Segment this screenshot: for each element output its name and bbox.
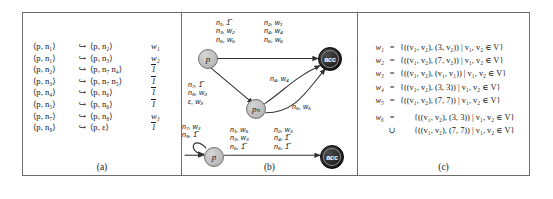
- equation-row: w₃ = {((v₁, v₂), (v₁, v₁)) | v₁, v₂ ∈ V}: [364, 67, 514, 80]
- rule-rhs: ⟨p, n₃⟩: [90, 53, 145, 65]
- equation-name: w₆: [364, 111, 384, 124]
- panel-b: p acc pₙ p acc n₁, 1̅ n₃, w₂ n₅, w₅ n₂, …: [182, 13, 358, 175]
- equation-body: {((v₁, v₂), (7, 7)) | v₁, v₂ ∈ V}: [400, 94, 500, 107]
- rule-arrow-icon: ↪: [75, 122, 90, 134]
- rule-lhs: ⟨p, n₁⟩: [33, 53, 75, 65]
- rule-weight: 1: [145, 99, 171, 111]
- equals-sign: =: [384, 81, 400, 94]
- equation-row: w₂ = {((v₁, v₂), (7, v₂)) | v₁, v₂ ∈ V}: [364, 54, 514, 67]
- rule-lhs: ⟨p, n₈⟩: [33, 122, 75, 134]
- panel-caption: (c): [358, 162, 529, 172]
- rule-weight: 1: [145, 87, 171, 99]
- rule-rhs: ⟨p, n₇ n₅⟩: [90, 76, 145, 88]
- panel-c: w₁ = {((v₁, v₂), (3, v₂)) | v₁, v₂ ∈ V} …: [358, 13, 529, 175]
- rule-rhs: ⟨p, n₂⟩: [90, 41, 145, 53]
- rule-rhs: ⟨p, n₇ n₄⟩: [90, 64, 145, 76]
- edge-label-pn-curve-upper: n₄, w₄: [270, 75, 289, 83]
- rule-arrow-icon: ↪: [75, 41, 90, 53]
- equation-row: w₅ = {((v₁, v₂), (7, 7)) | v₁, v₂ ∈ V}: [364, 94, 514, 107]
- rule-weight: w₂: [145, 53, 171, 65]
- rule-lhs: ⟨p, n₇⟩: [33, 111, 75, 123]
- rule-lhs: ⟨p, n₁⟩: [33, 41, 75, 53]
- edge-label-self-loop: n₇, w₃ n₈, 1̅: [182, 123, 201, 140]
- rule-row: ⟨p, n₅⟩ ↪ ⟨p, n₆⟩ 1: [33, 99, 171, 111]
- edge-label-bottom-right-col: n₂, w₃ n₄, 1̅ n₆, 1̅: [274, 126, 293, 151]
- edge-label-bottom-left-col: n₁, w₆ n₃, w₃ n₅, 1̅: [230, 126, 249, 151]
- equation-name: w₃: [364, 67, 384, 80]
- rule-weight: 1: [145, 64, 171, 76]
- rule-lhs: ⟨p, n₃⟩: [33, 76, 75, 88]
- rule-arrow-icon: ↪: [75, 99, 90, 111]
- equals-sign: =: [384, 41, 400, 54]
- rule-lhs: ⟨p, n₅⟩: [33, 99, 75, 111]
- equation-row: w₄ = {((v₁, v₂), (3, 3)) | v₁, v₂ ∈ V}: [364, 81, 514, 94]
- rule-row: ⟨p, n₁⟩ ↪ ⟨p, n₃⟩ w₂: [33, 53, 171, 65]
- rule-lhs: ⟨p, n₂⟩: [33, 64, 75, 76]
- equation-name: w₂: [364, 54, 384, 67]
- rule-weight: 1: [145, 76, 171, 88]
- rule-arrow-icon: ↪: [75, 64, 90, 76]
- rule-weight: w₁: [145, 41, 171, 53]
- rule-rhs: ⟨p, n₆⟩: [90, 87, 145, 99]
- node-pn[interactable]: pₙ: [246, 99, 266, 119]
- equation-body: {((v₁, v₂), (7, 7)) | v₁, v₂ ∈ V}: [400, 124, 514, 137]
- equation-body: {((v₁, v₂), (7, v₂)) | v₁, v₂ ∈ V}: [400, 54, 503, 67]
- rule-row: ⟨p, n₃⟩ ↪ ⟨p, n₇ n₅⟩ 1: [33, 76, 171, 88]
- union-operator: ∪: [384, 124, 400, 137]
- equals-sign: =: [384, 67, 400, 80]
- rule-row: ⟨p, n₇⟩ ↪ ⟨p, n₈⟩ w₃: [33, 111, 171, 123]
- node-acc-top[interactable]: acc: [318, 47, 342, 71]
- rule-weight: w₃: [145, 111, 171, 123]
- figure-container: ⟨p, n₁⟩ ↪ ⟨p, n₂⟩ w₁ ⟨p, n₁⟩ ↪ ⟨p, n₃⟩ w…: [22, 12, 530, 176]
- rule-rhs: ⟨p, n₆⟩: [90, 99, 145, 111]
- equation-body: {((v₁, v₂), (v₁, v₁)) | v₁, v₂ ∈ V}: [400, 67, 506, 80]
- equation-row-w6-line2: ∪ {((v₁, v₂), (7, 7)) | v₁, v₂ ∈ V}: [364, 124, 514, 137]
- rule-rhs: ⟨p, n₈⟩: [90, 111, 145, 123]
- pushdown-rules-list: ⟨p, n₁⟩ ↪ ⟨p, n₂⟩ w₁ ⟨p, n₁⟩ ↪ ⟨p, n₃⟩ w…: [33, 41, 171, 134]
- equation-body: {((v₁, v₂), (3, 3)) | v₁, v₂ ∈ V}: [400, 111, 514, 124]
- weight-definitions-list: w₁ = {((v₁, v₂), (3, v₂)) | v₁, v₂ ∈ V} …: [364, 41, 514, 137]
- panel-caption: (a): [23, 162, 181, 172]
- rule-arrow-icon: ↪: [75, 53, 90, 65]
- node-p-top[interactable]: p: [198, 49, 218, 69]
- rule-weight: 1: [145, 122, 171, 134]
- edge-label-p-to-pn: n₇, 1̅ n₈, w₃ ε, w₃: [188, 81, 207, 106]
- edge-label-top-right-col: n₂, w₁ n₄, w₄ n₆, w₆: [264, 19, 283, 44]
- rule-row: ⟨p, n₁⟩ ↪ ⟨p, n₂⟩ w₁: [33, 41, 171, 53]
- panel-a: ⟨p, n₁⟩ ↪ ⟨p, n₂⟩ w₁ ⟨p, n₁⟩ ↪ ⟨p, n₃⟩ w…: [23, 13, 182, 175]
- rule-rhs: ⟨p, ε⟩: [90, 122, 145, 134]
- rule-row: ⟨p, n₂⟩ ↪ ⟨p, n₇ n₄⟩ 1: [33, 64, 171, 76]
- equals-sign: =: [384, 54, 400, 67]
- edge-label-pn-curve-lower: n₅, w₅: [292, 103, 311, 111]
- equation-row: w₁ = {((v₁, v₂), (3, v₂)) | v₁, v₂ ∈ V}: [364, 41, 514, 54]
- rule-arrow-icon: ↪: [75, 87, 90, 99]
- rule-arrow-icon: ↪: [75, 76, 90, 88]
- equation-body: {((v₁, v₂), (3, 3)) | v₁, v₂ ∈ V}: [400, 81, 500, 94]
- edge-label-top-left-col: n₁, 1̅ n₃, w₂ n₅, w₅: [216, 19, 235, 44]
- equals-sign: =: [384, 94, 400, 107]
- rule-row: ⟨p, n₈⟩ ↪ ⟨p, ε⟩ 1: [33, 122, 171, 134]
- rule-lhs: ⟨p, n₄⟩: [33, 87, 75, 99]
- equation-name: w₄: [364, 81, 384, 94]
- equation-row-w6-line1: w₆ = {((v₁, v₂), (3, 3)) | v₁, v₂ ∈ V}: [364, 111, 514, 124]
- rule-row: ⟨p, n₄⟩ ↪ ⟨p, n₆⟩ 1: [33, 87, 171, 99]
- equals-sign: =: [384, 111, 400, 124]
- equation-body: {((v₁, v₂), (3, v₂)) | v₁, v₂ ∈ V}: [400, 41, 503, 54]
- equation-name: w₅: [364, 94, 384, 107]
- rule-arrow-icon: ↪: [75, 111, 90, 123]
- equation-name: w₁: [364, 41, 384, 54]
